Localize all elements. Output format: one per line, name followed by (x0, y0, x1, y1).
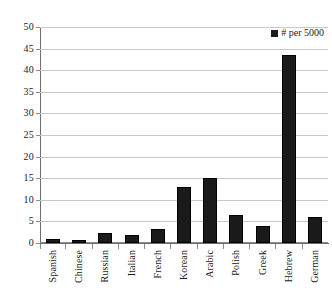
bar-slot (197, 27, 223, 243)
x-tick-label-spanish: Spanish (48, 250, 58, 282)
x-tick-mark (250, 244, 276, 249)
y-tick-label: 30 (0, 108, 34, 118)
x-label-slot: French (145, 250, 171, 305)
legend-square-marker-icon (271, 30, 278, 37)
y-tick-label: 25 (0, 130, 34, 140)
y-tick-label-wrap: 35 (0, 87, 34, 97)
bar-french[interactable] (151, 229, 165, 243)
bar-slot (276, 27, 302, 243)
x-label-slot: Spanish (40, 250, 66, 305)
bar-german[interactable] (308, 217, 322, 243)
x-tick-label-polish: Polish (231, 250, 241, 276)
y-tick-label-wrap: 25 (0, 130, 34, 140)
x-label-slot: Chinese (66, 250, 92, 305)
x-tick-mark (119, 244, 145, 249)
y-tick-label-wrap: 40 (0, 65, 34, 75)
x-label-slot: Italian (119, 250, 145, 305)
y-tick-label-wrap: 15 (0, 173, 34, 183)
plot-area (40, 27, 328, 243)
bar-slot (250, 27, 276, 243)
y-tick-label-wrap: 20 (0, 152, 34, 162)
x-tick-mark (93, 244, 119, 249)
x-tick-label-arabic: Arabic (205, 250, 215, 278)
bar-slot (171, 27, 197, 243)
y-tick-label: 35 (0, 87, 34, 97)
y-tick-label: 15 (0, 173, 34, 183)
bar-slot (92, 27, 118, 243)
bar-hebrew[interactable] (282, 55, 296, 243)
x-label-slot: Arabic (197, 250, 223, 305)
bar-russian[interactable] (98, 233, 112, 243)
x-label-slot: German (302, 250, 328, 305)
x-axis-labels: SpanishChineseRussianItalianFrenchKorean… (40, 250, 328, 305)
x-tick-label-russian: Russian (100, 250, 110, 282)
y-tick-label: 10 (0, 195, 34, 205)
x-tick-mark (171, 244, 197, 249)
x-label-slot: Polish (223, 250, 249, 305)
y-tick-label-wrap: 0 (0, 238, 34, 248)
bar-slot (223, 27, 249, 243)
y-tick-label: 5 (0, 216, 34, 226)
x-tick-label-korean: Korean (179, 250, 189, 280)
y-tick-label: 45 (0, 44, 34, 54)
y-tick-label: 0 (0, 238, 34, 248)
bar-slot (145, 27, 171, 243)
x-tick-label-chinese: Chinese (74, 250, 84, 283)
legend-label: # per 5000 (281, 28, 324, 38)
bar-greek[interactable] (256, 226, 270, 243)
bar-series (40, 27, 328, 243)
x-tick-label-greek: Greek (258, 250, 268, 275)
y-tick-label-wrap: 45 (0, 44, 34, 54)
bar-chart: 50454035302520151050 SpanishChineseRussi… (0, 0, 332, 305)
x-tick-label-german: German (310, 250, 320, 283)
x-tick-mark (303, 244, 328, 249)
x-label-slot: Greek (250, 250, 276, 305)
bar-slot (66, 27, 92, 243)
y-tick-label-wrap: 50 (0, 22, 34, 32)
legend: # per 5000 (271, 28, 324, 38)
y-tick-label-wrap: 5 (0, 216, 34, 226)
bar-polish[interactable] (229, 215, 243, 243)
y-tick-label-wrap: 30 (0, 108, 34, 118)
bar-italian[interactable] (125, 235, 139, 243)
bar-slot (40, 27, 66, 243)
x-tick-mark (145, 244, 171, 249)
x-tick-label-hebrew: Hebrew (284, 250, 294, 282)
x-label-slot: Russian (92, 250, 118, 305)
x-tick-mark (276, 244, 302, 249)
x-tick-label-italian: Italian (127, 250, 137, 276)
bar-slot (302, 27, 328, 243)
bar-slot (119, 27, 145, 243)
x-tick-mark (224, 244, 250, 249)
y-tick-label: 50 (0, 22, 34, 32)
y-tick-label: 20 (0, 152, 34, 162)
y-tick-label: 40 (0, 65, 34, 75)
x-axis-ticks (40, 244, 328, 249)
x-tick-mark (198, 244, 224, 249)
bar-arabic[interactable] (203, 178, 217, 243)
x-tick-mark (66, 244, 92, 249)
x-tick-label-french: French (153, 250, 163, 278)
y-tick-label-wrap: 10 (0, 195, 34, 205)
x-label-slot: Korean (171, 250, 197, 305)
x-tick-mark (40, 244, 66, 249)
bar-korean[interactable] (177, 187, 191, 243)
x-label-slot: Hebrew (276, 250, 302, 305)
